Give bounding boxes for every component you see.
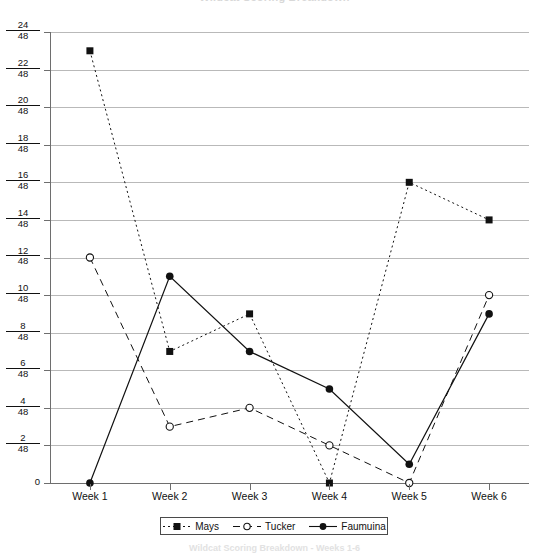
x-axis-tick-label: Week 4 [294,490,364,502]
gridline [50,107,529,108]
y-label-denominator: 48 [6,181,40,191]
gridline [50,70,529,71]
y-label-denominator: 48 [6,69,40,79]
chart-title-clipped: Wildcat Scoring Breakdown [0,0,549,3]
y-axis-tick-label: 1048 [6,283,40,304]
y-axis-tick [44,32,50,33]
x-axis-tick-label: Week 6 [454,490,524,502]
y-label-denominator: 48 [6,294,40,304]
y-axis-tick-label: 248 [6,433,40,454]
x-axis-tick-label: Week 3 [215,490,285,502]
y-axis-tick-label: 448 [6,396,40,417]
y-label-numerator: 8 [6,321,40,332]
gridline [50,408,529,409]
legend-label: Tucker [265,521,295,532]
y-label-denominator: 48 [6,407,40,417]
y-axis-tick [44,445,50,446]
legend-entry-mays[interactable]: Mays [162,521,219,532]
y-axis-tick-label: 0 [6,477,40,487]
gridline [50,182,529,183]
y-axis-tick [44,145,50,146]
y-axis-tick [44,370,50,371]
y-label-denominator: 48 [6,256,40,266]
chart-caption-clipped: Wildcat Scoring Breakdown - Weeks 1-6 [0,543,549,553]
y-axis-tick-label: 1648 [6,170,40,191]
y-label-denominator: 48 [6,31,40,41]
y-axis-tick-label: 848 [6,321,40,342]
legend-swatch-open-circle [232,521,262,532]
gridline [50,258,529,259]
gridline [50,370,529,371]
y-axis-tick [44,70,50,71]
gridline [50,32,529,33]
chart-page: Wildcat Scoring Breakdown MaysTuckerFaum… [0,0,549,553]
x-axis-tick-label: Week 5 [374,490,444,502]
y-axis-line [50,32,51,484]
y-axis-tick [44,408,50,409]
y-axis-tick-label: 1448 [6,208,40,229]
x-axis-tick-label: Week 1 [55,490,125,502]
y-axis-tick [44,107,50,108]
y-label-denominator: 48 [6,219,40,229]
legend-swatch-filled-square [162,521,192,532]
y-axis-tick [44,182,50,183]
legend-entry-tucker[interactable]: Tucker [232,521,295,532]
y-axis-tick [44,220,50,221]
y-label-denominator: 48 [6,369,40,379]
x-axis-tick-label: Week 2 [135,490,205,502]
chart-legend: MaysTuckerFaumuina [160,517,388,535]
gridline [50,333,529,334]
x-axis-line [50,483,529,484]
gridline [50,220,529,221]
y-label-numerator: 22 [6,58,40,69]
y-axis-tick [44,295,50,296]
y-label-denominator: 48 [6,144,40,154]
y-label-denominator: 48 [6,106,40,116]
y-axis-tick-label: 1848 [6,133,40,154]
legend-entry-faumuina[interactable]: Faumuina [308,521,385,532]
y-label-denominator: 48 [6,332,40,342]
y-axis-tick-label: 1248 [6,246,40,267]
y-axis-tick [44,483,50,484]
gridline [50,145,529,146]
y-axis-tick [44,333,50,334]
legend-label: Mays [195,521,219,532]
y-axis-tick-label: 648 [6,358,40,379]
gridline [50,445,529,446]
legend-label: Faumuina [341,521,385,532]
plot-area [50,32,529,483]
y-label-denominator: 48 [6,444,40,454]
y-axis-tick-label: 2448 [6,20,40,41]
gridline [50,295,529,296]
y-axis-tick [44,258,50,259]
y-axis-tick-label: 2248 [6,58,40,79]
y-axis-tick-label: 2048 [6,95,40,116]
legend-swatch-filled-circle [308,521,338,532]
